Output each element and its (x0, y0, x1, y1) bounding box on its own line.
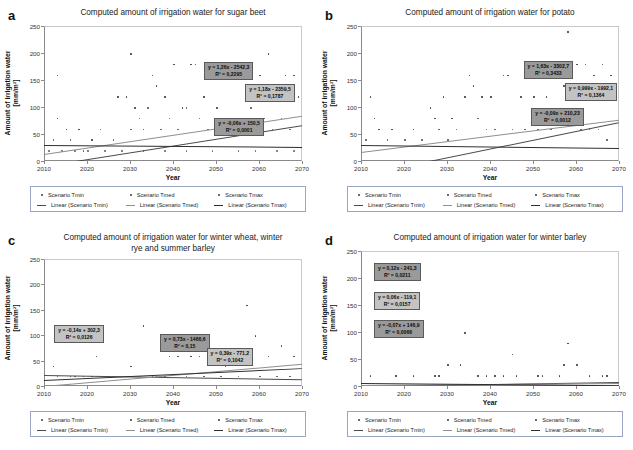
legend-item-scenario-tmed[interactable]: Scenario Tmed (441, 192, 530, 198)
data-point (152, 75, 154, 77)
y-tick-mark (358, 332, 361, 333)
data-point (250, 107, 252, 109)
legend-item-linear-tmed[interactable]: Linear (Scenario Tmed) (124, 427, 213, 433)
data-point (447, 364, 449, 366)
legend-line-icon (37, 205, 46, 206)
data-point (57, 75, 59, 77)
data-point (259, 75, 261, 77)
legend-item-scenario-tmed[interactable]: Scenario Tmed (124, 192, 213, 198)
panel-title-line: Computed amount of irrigation water for … (355, 232, 625, 243)
legend-row-markers: Scenario TminScenario TmedScenario Tmax (352, 190, 618, 200)
legend-item-linear-tmin[interactable]: Linear (Scenario Tmin) (35, 202, 124, 208)
data-point (464, 96, 466, 98)
data-point (268, 53, 270, 55)
data-point (602, 64, 604, 66)
y-tick-mark (41, 26, 44, 27)
data-point (533, 96, 535, 98)
regression-equation-box: y = 0,12x - 241,3R² = 0,0211 (374, 263, 421, 281)
x-axis-label-b: Year (361, 174, 619, 181)
data-point (156, 85, 158, 87)
regression-equation: y = 0,73x - 1466,6 (164, 336, 206, 343)
x-tick-label: 2010 (354, 165, 368, 172)
x-tick-label: 2070 (612, 165, 626, 172)
legend-label: Scenario Tmin (365, 192, 401, 198)
legend-item-linear-tmax[interactable]: Linear (Scenario Tmax) (212, 427, 301, 433)
regression-equation-box: y = 1,18x - 2359,5R² = 0,1787 (245, 84, 295, 102)
regression-equation: y = 0,999x - 1992,1 (569, 85, 613, 92)
legend-line-icon (443, 430, 452, 431)
legend-item-linear-tmin[interactable]: Linear (Scenario Tmin) (35, 427, 124, 433)
legend-b: Scenario TminScenario TmedScenario TmaxL… (347, 186, 623, 212)
r-squared-value: R² = 0,2295 (208, 71, 250, 78)
regression-equation: y = 1,18x - 2359,5 (249, 86, 291, 93)
regression-equation-box: y = 0,999x - 1992,1R² = 0,1364 (565, 83, 617, 101)
data-point (395, 375, 397, 377)
data-point (66, 129, 68, 131)
y-tick-mark (358, 359, 361, 360)
x-tick-label: 2050 (209, 165, 223, 172)
data-point (542, 375, 544, 377)
y-tick-mark (41, 53, 44, 54)
legend-item-linear-tmed[interactable]: Linear (Scenario Tmed) (441, 202, 530, 208)
y-tick-mark (358, 107, 361, 108)
y-tick-label: 50 (33, 357, 40, 364)
data-point (87, 150, 89, 152)
data-point (100, 129, 102, 131)
figure-sheet: a Computed amount of irrigation water fo… (0, 0, 633, 450)
legend-item-linear-tmax[interactable]: Linear (Scenario Tmax) (212, 202, 301, 208)
x-tick-label: 2060 (252, 390, 266, 397)
legend-item-scenario-tmin[interactable]: Scenario Tmin (352, 417, 441, 423)
legend-label: Scenario Tmax (225, 417, 263, 423)
legend-item-scenario-tmax[interactable]: Scenario Tmax (529, 417, 618, 423)
x-tick-label: 2040 (166, 165, 180, 172)
y-tick-label: 150 (347, 302, 357, 309)
panel-letter-a: a (8, 8, 15, 23)
panel-title-d: Computed amount of irrigation water for … (355, 232, 625, 243)
data-point (199, 118, 201, 120)
legend-item-scenario-tmax[interactable]: Scenario Tmax (529, 192, 618, 198)
x-tick-mark (44, 386, 45, 389)
data-point (173, 64, 175, 66)
y-tick-label: 0 (354, 383, 357, 390)
regression-equation: y = 1,63x - 3302,7 (528, 63, 570, 70)
x-tick-mark (619, 161, 620, 164)
regression-equation-box: y = 0,73x - 1466,6R² = 0,15 (160, 334, 210, 352)
legend-item-scenario-tmin[interactable]: Scenario Tmin (352, 192, 441, 198)
legend-item-scenario-tmax[interactable]: Scenario Tmax (212, 192, 301, 198)
regression-equation-box: y = 0,06x - 119,1R² = 0,0157 (374, 292, 420, 310)
y-tick-label: 200 (347, 275, 357, 282)
y-tick-label: 50 (33, 131, 40, 138)
data-point (378, 129, 380, 131)
legend-item-linear-tmed[interactable]: Linear (Scenario Tmed) (441, 427, 530, 433)
legend-marker-icon (447, 194, 449, 196)
legend-item-scenario-tmed[interactable]: Scenario Tmed (441, 417, 530, 423)
x-tick-label: 2030 (440, 165, 454, 172)
data-point (143, 325, 145, 327)
data-point (589, 375, 591, 377)
legend-item-linear-tmed[interactable]: Linear (Scenario Tmed) (124, 202, 213, 208)
x-tick-label: 2010 (37, 390, 51, 397)
legend-item-scenario-tmed[interactable]: Scenario Tmed (124, 417, 213, 423)
data-point (177, 356, 179, 358)
data-point (289, 376, 291, 378)
legend-item-linear-tmax[interactable]: Linear (Scenario Tmax) (529, 427, 618, 433)
data-point (190, 356, 192, 358)
legend-item-linear-tmin[interactable]: Linear (Scenario Tmin) (352, 202, 441, 208)
data-point (91, 139, 93, 141)
x-tick-mark (173, 386, 174, 389)
x-tick-mark (490, 386, 491, 389)
x-tick-label: 2060 (252, 165, 266, 172)
legend-item-linear-tmin[interactable]: Linear (Scenario Tmin) (352, 427, 441, 433)
data-point (434, 375, 436, 377)
legend-item-scenario-tmin[interactable]: Scenario Tmin (35, 192, 124, 198)
legend-item-scenario-tmax[interactable]: Scenario Tmax (212, 417, 301, 423)
regression-equation-box: y = -0,06x + 150,5R² = 0,0001 (214, 118, 264, 136)
legend-item-linear-tmax[interactable]: Linear (Scenario Tmax) (529, 202, 618, 208)
plot-area-d: 0501001502002502010202020302040205020602… (361, 251, 619, 386)
data-point (143, 129, 145, 131)
legend-item-scenario-tmin[interactable]: Scenario Tmin (35, 417, 124, 423)
data-point (413, 375, 415, 377)
data-point (370, 375, 372, 377)
y-tick-label: 200 (347, 50, 357, 57)
legend-label: Scenario Tmed (137, 417, 175, 423)
